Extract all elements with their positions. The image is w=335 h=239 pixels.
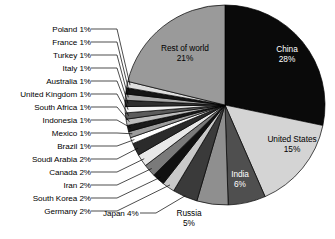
callout-label-canada: Canada 2% [49, 168, 91, 177]
leader-line-france [91, 42, 129, 91]
slice-label-india-pct: 6% [222, 180, 258, 190]
slice-label-russia: Russia 5% [168, 209, 210, 228]
callout-label-turkey: Turkey 1% [53, 51, 91, 60]
leader-line-canada [91, 159, 144, 172]
callout-label-italy: Italy 1% [63, 64, 91, 73]
slice-label-china-pct: 28% [261, 55, 313, 65]
leader-line-italy [91, 68, 128, 103]
slice-label-russia-pct: 5% [168, 219, 210, 229]
slice-label-india: India 6% [222, 170, 258, 189]
callout-label-mexico: Mexico 1% [52, 129, 91, 138]
leader-line-iran [91, 169, 152, 185]
slice-label-rest-of-world: Rest of world 21% [147, 44, 223, 63]
leader-line-indonesia [91, 120, 131, 128]
callout-label-indonesia: Indonesia 1% [43, 116, 91, 125]
callout-label-soudi-arabia: Soudi Arabia 2% [32, 155, 91, 164]
leader-line-brazil [91, 140, 134, 146]
slice-label-rest-of-world-pct: 21% [147, 54, 223, 64]
callout-label-south-africa: South Africa 1% [34, 103, 91, 112]
pie-chart-figure: Poland 1% France 1% Turkey 1% Italy 1% A… [0, 0, 335, 239]
callout-label-south-korea: South Korea 2% [33, 194, 91, 203]
callout-label-iran: Iran 2% [63, 181, 91, 190]
callout-label-brazil: Brazil 1% [57, 142, 91, 151]
slice-label-china: China 28% [261, 45, 313, 64]
leader-line-south-africa [91, 107, 129, 122]
callout-label-australia: Australia 1% [46, 77, 91, 86]
callout-label-france: France 1% [52, 38, 91, 47]
slice-label-united-states-pct: 15% [254, 145, 330, 155]
callout-label-japan: Japan 4% [103, 209, 139, 218]
callout-label-poland: Poland 1% [52, 25, 91, 34]
leader-line-mexico [91, 133, 132, 134]
slice-label-united-states: United States 15% [254, 135, 330, 154]
leader-line-turkey [91, 55, 128, 97]
pie-slice-china [225, 5, 325, 125]
leader-line-poland [91, 29, 130, 85]
callout-label-united-kingdom: United Kingdom 1% [20, 90, 91, 99]
leader-line-soudi-arabia [91, 148, 138, 159]
callout-label-germany: Germany 2% [44, 207, 91, 216]
